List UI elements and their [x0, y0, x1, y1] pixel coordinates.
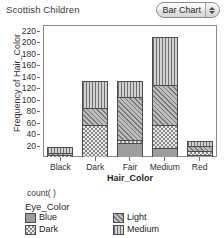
legend-item-medium[interactable]: Medium — [113, 224, 159, 235]
bar-segment-fair-light[interactable] — [118, 97, 142, 140]
y-axis-tick-label: 140 — [22, 72, 36, 81]
legend: count( ) Eye_Color BlueDark LightMedium — [0, 186, 224, 238]
chart-header: Scottish Children Bar Chart — [0, 0, 224, 22]
bar-red[interactable] — [187, 141, 213, 157]
page-title: Scottish Children — [6, 4, 80, 15]
legend-item-dark[interactable]: Dark — [25, 224, 58, 235]
chart-type-select-value: Bar Chart — [162, 3, 205, 17]
bar-chart: Frequency of Hair_Color 2040608010012014… — [0, 20, 224, 188]
y-axis-tick-mark — [37, 111, 40, 112]
bar-segment-fair-medium[interactable] — [118, 82, 142, 96]
bar-segment-fair-blue[interactable] — [118, 143, 142, 157]
count-expression: count( ) — [27, 188, 56, 198]
y-axis-tick-label: 220 — [22, 26, 36, 35]
bar-slot — [182, 25, 217, 157]
x-axis-tick-mark — [95, 157, 96, 161]
legend-swatch-medium — [113, 225, 124, 235]
y-axis-tick-label: 80 — [27, 107, 36, 116]
legend-item-label: Blue — [39, 213, 57, 222]
x-axis-tick-mark — [199, 157, 200, 161]
x-axis-tick-label: Fair — [113, 162, 148, 172]
y-axis-tick-mark — [37, 100, 40, 101]
bar-slot — [147, 25, 182, 157]
legend-swatch-blue — [25, 213, 36, 223]
y-axis-tick-label: 100 — [22, 95, 36, 104]
y-axis-tick-label: 160 — [22, 61, 36, 70]
y-axis-tick-label: 120 — [22, 84, 36, 93]
bar-slot — [113, 25, 148, 157]
legend-title: Eye_Color — [25, 201, 69, 212]
bar-segment-medium-light[interactable] — [153, 85, 177, 125]
chevron-down-icon — [209, 11, 215, 14]
x-axis-tick-label: Black — [43, 162, 78, 172]
bar-dark[interactable] — [82, 81, 108, 157]
stepper-up-down-icon[interactable] — [205, 3, 217, 17]
y-axis-tick-label: 40 — [27, 130, 36, 139]
legend-item-label: Dark — [39, 225, 58, 234]
y-axis-tick-label: 60 — [27, 118, 36, 127]
legend-swatch-dark — [25, 225, 36, 235]
legend-item-label: Light — [127, 213, 147, 222]
bar-segment-dark-medium[interactable] — [83, 82, 107, 108]
x-axis-tick-label: Red — [182, 162, 217, 172]
y-axis-tick-mark — [37, 77, 40, 78]
x-axis-title: Hair_Color — [43, 173, 217, 183]
bar-slot — [43, 25, 78, 157]
legend-swatch-light — [113, 213, 124, 223]
y-axis-tick-label: 180 — [22, 49, 36, 58]
y-axis-tick-mark — [37, 123, 40, 124]
y-axis-tick-mark — [37, 42, 40, 43]
legend-item-light[interactable]: Light — [113, 212, 159, 223]
x-axis-tick-label: Medium — [147, 162, 182, 172]
y-axis-ticks: 20406080100120140160180200220 — [14, 20, 40, 160]
y-axis-tick-mark — [37, 88, 40, 89]
chart-type-select[interactable]: Bar Chart — [156, 2, 220, 18]
y-axis-tick-label: 200 — [22, 38, 36, 47]
bar-series-group — [43, 25, 217, 157]
y-axis-tick-mark — [37, 146, 40, 147]
x-axis-tick-label: Dark — [78, 162, 113, 172]
bar-segment-dark-light[interactable] — [83, 108, 107, 125]
legend-column-left: BlueDark — [25, 212, 58, 235]
bar-black[interactable] — [47, 147, 73, 157]
x-axis-tick-mark — [129, 157, 130, 161]
x-axis-tick-mark — [164, 157, 165, 161]
y-axis-tick-mark — [37, 65, 40, 66]
legend-column-right: LightMedium — [113, 212, 159, 235]
legend-item-label: Medium — [127, 225, 159, 234]
bar-segment-medium-dark[interactable] — [153, 125, 177, 148]
bar-medium[interactable] — [152, 37, 178, 157]
y-axis-tick-mark — [37, 31, 40, 32]
bar-segment-medium-medium[interactable] — [153, 38, 177, 86]
bar-slot — [78, 25, 113, 157]
bar-segment-medium-blue[interactable] — [153, 148, 177, 157]
y-axis-tick-mark — [37, 54, 40, 55]
chevron-up-icon — [209, 7, 215, 10]
x-axis-tick-mark — [60, 157, 61, 161]
bar-fair[interactable] — [117, 81, 143, 157]
bar-segment-dark-dark[interactable] — [83, 125, 107, 157]
legend-item-blue[interactable]: Blue — [25, 212, 58, 223]
y-axis-tick-label: 20 — [27, 141, 36, 150]
y-axis-tick-mark — [37, 134, 40, 135]
x-axis-labels: BlackDarkFairMediumRed — [43, 162, 217, 172]
